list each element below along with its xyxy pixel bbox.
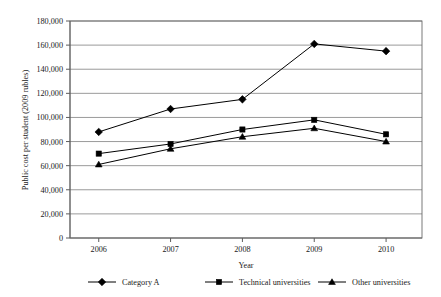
square-marker-icon [383, 132, 388, 137]
legend-label: Other universities [352, 278, 410, 287]
legend-item-technical-universities: Technical universities [205, 278, 311, 287]
series-line [99, 44, 386, 132]
y-tick-label: 100,000 [36, 113, 63, 122]
diamond-marker-icon [167, 105, 175, 113]
y-tick-label: 40,000 [40, 186, 63, 195]
legend-item-category-a: Category A [88, 278, 160, 287]
line-chart: 020,00040,00060,00080,000100,000120,0001… [0, 0, 441, 297]
x-tick-label: 2010 [378, 245, 394, 254]
x-tick-label: 2006 [91, 245, 107, 254]
y-tick-label: 20,000 [40, 210, 63, 219]
chart-figure: 020,00040,00060,00080,000100,000120,0001… [0, 0, 441, 297]
y-tick-label: 120,000 [36, 89, 63, 98]
y-tick-label: 80,000 [40, 138, 63, 147]
y-tick-label: 140,000 [36, 65, 63, 74]
triangle-marker-icon [311, 125, 318, 131]
y-tick-label: 160,000 [36, 41, 63, 50]
diamond-marker-icon [95, 128, 103, 136]
diamond-marker-icon [382, 47, 390, 55]
tick-marks-group [66, 21, 386, 242]
square-marker-icon [216, 279, 221, 284]
square-marker-icon [96, 151, 101, 156]
data-series-group [95, 40, 390, 167]
x-axis-title: Year [238, 261, 253, 270]
series-category-a [95, 40, 390, 136]
y-tick-label: 60,000 [40, 162, 63, 171]
legend-label: Category A [122, 278, 160, 287]
y-tick-label: 180,000 [36, 17, 63, 26]
x-tick-label: 2007 [162, 245, 178, 254]
square-marker-icon [312, 117, 317, 122]
chart-legend: Category ATechnical universitiesOther un… [88, 278, 410, 287]
diamond-marker-icon [98, 278, 106, 286]
legend-item-other-universities: Other universities [318, 278, 410, 287]
y-axis-title: Public cost per student (2009 rubles) [21, 70, 30, 191]
y-axis-tick-labels: 020,00040,00060,00080,000100,000120,0001… [36, 17, 63, 243]
legend-label: Technical universities [239, 278, 311, 287]
square-marker-icon [240, 127, 245, 132]
y-tick-label: 0 [59, 234, 63, 243]
x-axis-tick-labels: 20062007200820092010 [91, 245, 395, 254]
x-tick-label: 2008 [234, 245, 250, 254]
x-tick-label: 2009 [306, 245, 322, 254]
